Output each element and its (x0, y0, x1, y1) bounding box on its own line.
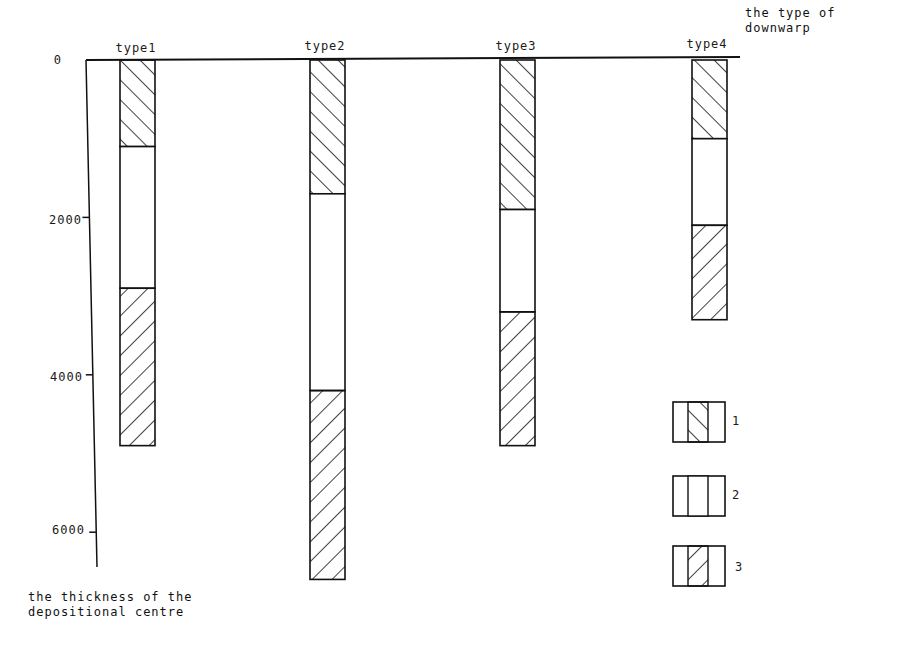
y-ticks (82, 217, 96, 532)
x-axis-line (86, 57, 740, 60)
bar-segment-type3-layer-1 (500, 60, 535, 210)
legend-label-3: 3 (735, 560, 742, 574)
bar-segment-type4-layer-3 (692, 225, 727, 319)
x-axis-title-line1: the type of (745, 6, 905, 21)
depositional-thickness-chart (0, 0, 917, 650)
x-axis-title: the type of downwarp (745, 6, 905, 36)
bars (120, 60, 727, 579)
y-tick-label-4000: 4000 (23, 370, 83, 384)
bar-segment-type1-layer-1 (120, 60, 155, 147)
category-label-type3: type3 (476, 39, 556, 53)
bar-segment-type2-layer-3 (310, 391, 345, 580)
y-tick-label-6000: 6000 (25, 523, 85, 537)
legend-swatch-1 (673, 402, 725, 442)
bar-type2 (310, 60, 345, 579)
legend-label-2: 2 (732, 488, 739, 502)
bar-segment-type3-layer-2 (500, 210, 535, 312)
bar-type3 (500, 60, 535, 446)
bar-type4 (692, 60, 727, 320)
x-axis-title-line2: downwarp (745, 21, 905, 36)
category-label-type4: type4 (667, 37, 747, 51)
y-axis-line (86, 60, 97, 567)
bar-segment-type4-layer-1 (692, 60, 727, 139)
y-axis-title-line1: the thickness of the (28, 590, 288, 605)
legend-swatch-3 (673, 546, 725, 586)
category-label-type1: type1 (96, 41, 176, 55)
axes (86, 57, 740, 567)
legend-label-1: 1 (732, 414, 739, 428)
legend-swatch-2 (673, 476, 725, 516)
y-tick-label-0: 0 (2, 53, 62, 67)
bar-type1 (120, 60, 155, 446)
y-axis-title: the thickness of the depositional centre (28, 590, 288, 620)
bar-segment-type2-layer-2 (310, 194, 345, 391)
bar-segment-type3-layer-3 (500, 312, 535, 446)
bar-segment-type1-layer-2 (120, 147, 155, 289)
legend (673, 402, 725, 586)
bar-segment-type1-layer-3 (120, 288, 155, 445)
bar-segment-type4-layer-2 (692, 139, 727, 226)
bar-segment-type2-layer-1 (310, 60, 345, 194)
category-label-type2: type2 (285, 39, 365, 53)
y-tick-label-2000: 2000 (22, 213, 82, 227)
y-axis-title-line2: depositional centre (28, 605, 288, 620)
